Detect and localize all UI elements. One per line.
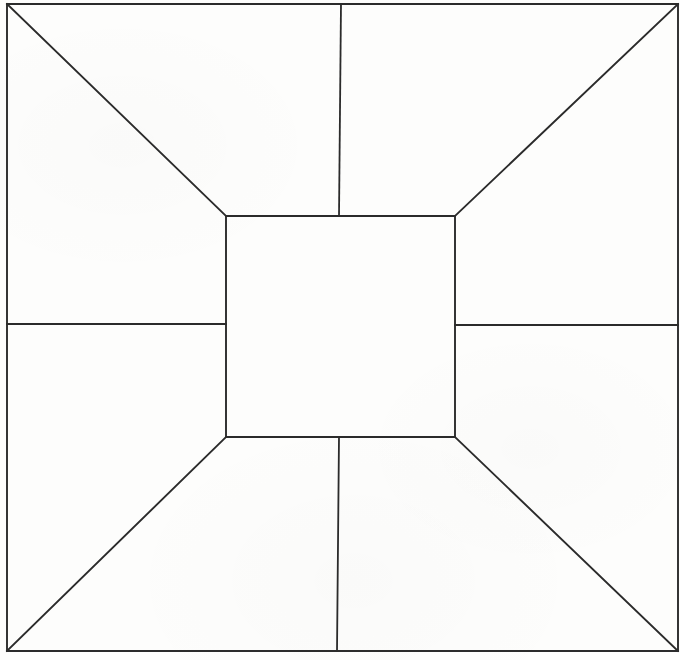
face-center bbox=[226, 216, 455, 437]
perspective-box-drawing bbox=[0, 0, 680, 660]
figure-canvas bbox=[0, 0, 680, 660]
